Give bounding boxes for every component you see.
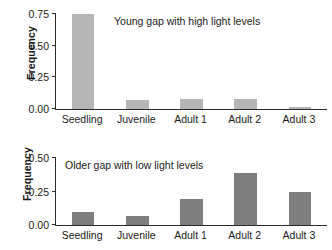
chart-annotation-bottom: Older gap with low light levels <box>65 159 203 171</box>
x-tick-label-1-3: Adult 2 <box>228 229 261 241</box>
y-tick-label-1-1: 0.25 <box>29 186 49 198</box>
bar-0-adult-1 <box>180 99 203 109</box>
x-tick-label-1-0: Seedling <box>62 229 103 241</box>
y-tick-label-0-2: 0.50 <box>29 40 49 52</box>
chart-panel-older-gap: Frequency Older gap with low light level… <box>0 140 332 250</box>
y-tick-1-2 <box>52 157 56 158</box>
y-tick-label-0-0: 0.00 <box>29 103 49 115</box>
y-tick-0-1 <box>52 76 56 77</box>
y-axis-title-bottom: Frequency <box>21 138 33 210</box>
bar-1-adult-1 <box>180 199 203 225</box>
x-tick-label-0-0: Seedling <box>62 113 103 125</box>
plot-area-top: Young gap with high light levels 0.000.2… <box>55 14 327 110</box>
y-tick-1-0 <box>52 224 56 225</box>
y-tick-label-1-2: 0.50 <box>29 152 49 164</box>
x-axis-labels-top: SeedlingJuvenileAdult 1Adult 2Adult 3 <box>55 113 327 129</box>
plot-area-bottom: Older gap with low light levels 0.000.25… <box>55 158 327 226</box>
x-tick-label-0-1: Juvenile <box>117 113 156 125</box>
x-axis-labels-bottom: SeedlingJuvenileAdult 1Adult 2Adult 3 <box>55 229 327 245</box>
x-tick-label-1-2: Adult 1 <box>174 229 207 241</box>
bar-1-seedling <box>72 212 95 225</box>
x-tick-label-1-1: Juvenile <box>117 229 156 241</box>
y-tick-0-2 <box>52 45 56 46</box>
bar-0-seedling <box>72 14 95 109</box>
y-tick-0-0 <box>52 108 56 109</box>
x-tick-label-1-4: Adult 3 <box>283 229 316 241</box>
x-tick-label-0-2: Adult 1 <box>174 113 207 125</box>
bar-0-juvenile <box>126 100 149 109</box>
bar-1-juvenile <box>126 216 149 225</box>
y-tick-label-0-3: 0.75 <box>29 8 49 20</box>
bar-1-adult-2 <box>234 173 257 225</box>
y-tick-0-3 <box>52 13 56 14</box>
chart-panel-young-gap: Frequency Young gap with high light leve… <box>0 0 332 135</box>
y-tick-1-1 <box>52 191 56 192</box>
x-tick-label-0-4: Adult 3 <box>283 113 316 125</box>
figure-bar-charts: Frequency Young gap with high light leve… <box>0 0 332 250</box>
y-tick-label-1-0: 0.00 <box>29 219 49 231</box>
bar-1-adult-3 <box>289 192 312 226</box>
bar-0-adult-3 <box>289 107 312 109</box>
x-tick-label-0-3: Adult 2 <box>228 113 261 125</box>
bar-0-adult-2 <box>234 99 257 109</box>
y-tick-label-0-1: 0.25 <box>29 71 49 83</box>
chart-annotation-top: Young gap with high light levels <box>114 15 260 27</box>
